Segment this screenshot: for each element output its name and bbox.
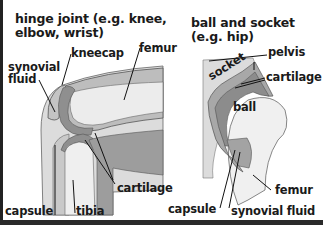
label-capsule-knee: capsule — [5, 205, 53, 217]
label-cartilage-knee: cartilage — [117, 182, 173, 194]
bottom-border — [0, 220, 323, 225]
hinge-joint-title: hinge joint (e.g. knee, — [15, 12, 167, 25]
label-cartilage-hip: cartilage — [266, 71, 322, 83]
diagram-frame: hinge joint (e.g. knee, elbow, wrist) kn… — [3, 0, 323, 220]
ball-socket-title-line2: (e.g. hip) — [191, 30, 254, 43]
label-synovial-fluid-knee-line2: fluid — [8, 73, 36, 85]
ball-socket-title: ball and socket — [191, 16, 295, 29]
label-pelvis: pelvis — [268, 46, 305, 58]
label-capsule-hip: capsule — [168, 203, 216, 215]
hinge-joint-title-line2: elbow, wrist) — [15, 26, 104, 39]
label-tibia: tibia — [76, 205, 104, 217]
label-synovial-fluid-hip: synovial fluid — [231, 205, 315, 217]
label-femur-hip: femur — [275, 184, 313, 196]
label-kneecap: kneecap — [71, 47, 124, 59]
label-femur-knee: femur — [139, 42, 177, 54]
label-ball: ball — [233, 101, 256, 113]
